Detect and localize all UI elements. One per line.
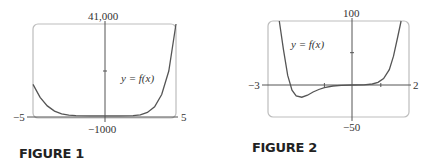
figure-2-ymax-label: 100 bbox=[343, 7, 360, 19]
figure-2-plot: 100 −50 −3 2 y = f(x) bbox=[248, 7, 419, 133]
figure-2-curve bbox=[279, 21, 401, 97]
figure-2-ymin-label: −50 bbox=[343, 121, 361, 133]
figure-canvas: 41,000 −1000 −5 5 y = f(x) 100 −50 −3 2 … bbox=[0, 0, 440, 164]
figure-1-ymax-label: 41,000 bbox=[88, 10, 119, 22]
figure-2-function-label: y = f(x) bbox=[290, 38, 324, 51]
figure-1-xmax-label: 5 bbox=[181, 111, 187, 123]
figure-2-frame bbox=[268, 21, 409, 117]
figure-2-caption: FIGURE 2 bbox=[252, 140, 317, 155]
figure-1-ymin-label: −1000 bbox=[88, 123, 117, 135]
figure-1-xmin-label: −5 bbox=[13, 111, 25, 123]
figure-1-function-label: y = f(x) bbox=[120, 72, 154, 85]
figure-2-xmax-label: 2 bbox=[413, 79, 419, 91]
figure-1-caption: FIGURE 1 bbox=[19, 146, 84, 161]
figure-1-plot: 41,000 −1000 −5 5 y = f(x) bbox=[13, 10, 187, 135]
figure-2-xmin-label: −3 bbox=[248, 79, 260, 91]
